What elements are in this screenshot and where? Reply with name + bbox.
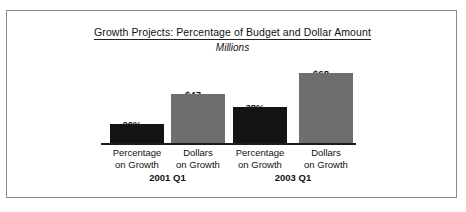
bar-percentage-2003 <box>233 107 287 143</box>
category-label-line1: Percentage <box>103 147 171 159</box>
axis-baseline <box>101 143 356 145</box>
group-label-2001: 2001 Q1 <box>103 172 232 183</box>
category-label-line1: Percentage <box>226 147 294 159</box>
category-label-line1: Dollars <box>164 147 232 159</box>
bar-dollars-2003 <box>299 73 353 143</box>
plot-area: 20% $47 Percentage on Growth Dollars on … <box>7 11 458 199</box>
category-label-percentage-2001: Percentage on Growth <box>103 147 171 170</box>
category-label-line2: on Growth <box>103 159 171 171</box>
chart-frame: Growth Projects: Percentage of Budget an… <box>6 10 457 198</box>
category-label-percentage-2003: Percentage on Growth <box>226 147 294 170</box>
category-label-line2: on Growth <box>226 159 294 171</box>
category-label-line2: on Growth <box>292 159 360 171</box>
category-label-dollars-2001: Dollars on Growth <box>164 147 232 170</box>
group-label-2003: 2003 Q1 <box>226 172 360 183</box>
category-label-dollars-2003: Dollars on Growth <box>292 147 360 170</box>
category-label-line2: on Growth <box>164 159 232 171</box>
category-label-line1: Dollars <box>292 147 360 159</box>
bar-dollars-2001 <box>171 94 225 143</box>
bar-percentage-2001 <box>110 124 164 143</box>
